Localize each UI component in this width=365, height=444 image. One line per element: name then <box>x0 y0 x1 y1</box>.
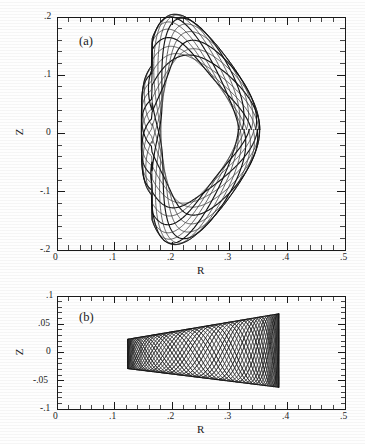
panel-a-xtick-0: 0 <box>53 252 58 262</box>
panel-b-xtick-3: .3 <box>224 411 231 421</box>
panel-b-ytick-0: .1 <box>46 290 53 300</box>
panel-a-plot <box>0 0 365 280</box>
panel-a-xtick-2: .2 <box>167 252 174 262</box>
panel-b-xtick-1: .1 <box>109 411 116 421</box>
panel-a-xtick-1: .1 <box>109 252 116 262</box>
panel-a-ytick-1: .1 <box>44 69 51 79</box>
panel-a-xtick-3: .3 <box>224 252 231 262</box>
panel-a-yaxis-label: Z <box>13 129 25 136</box>
panel-b-ytick-4: -.1 <box>40 403 50 413</box>
panel-b-xtick-2: .2 <box>167 411 174 421</box>
panel-a-tag: (a) <box>79 34 93 49</box>
panel-b-ytick-3: -.05 <box>33 375 48 385</box>
panel-b-ytick-1: .05 <box>38 318 50 328</box>
panel-b-yaxis-label: Z <box>13 349 25 356</box>
panel-b-flux-surface-traces <box>128 314 279 387</box>
panel-a-ytick-2: 0 <box>46 127 51 137</box>
panel-b-xaxis-label: R <box>197 423 204 435</box>
panel-a-xtick-5: .5 <box>340 252 347 262</box>
panel-a-y-minor-ticks <box>57 29 345 239</box>
panel-a-ytick-3: -.1 <box>40 186 50 196</box>
panel-a-xaxis-label: R <box>197 264 204 276</box>
flux-line-trace <box>154 14 242 243</box>
panel-b-tag: (b) <box>79 310 94 325</box>
panel-b-xtick-4: .4 <box>282 411 289 421</box>
panel-b: 0 .1 .2 .3 .4 .5 .1 .05 0 -.05 -.1 R Z (… <box>0 280 365 444</box>
panel-a-ytick-0: .2 <box>44 11 51 21</box>
panel-b-ytick-2: 0 <box>46 346 51 356</box>
panel-b-xtick-0: 0 <box>53 411 58 421</box>
panel-a: 0 .1 .2 .3 .4 .5 .2 .1 0 -.1 -.2 R Z (a) <box>0 0 365 280</box>
panel-a-ytick-4: -.2 <box>40 244 50 254</box>
panel-b-xtick-5: .5 <box>340 411 347 421</box>
panel-a-flux-surface-traces <box>141 14 259 244</box>
figure-canvas: 0 .1 .2 .3 .4 .5 .2 .1 0 -.1 -.2 R Z (a) <box>0 0 365 444</box>
panel-a-xtick-4: .4 <box>282 252 289 262</box>
flux-surface-boundary <box>128 369 279 388</box>
